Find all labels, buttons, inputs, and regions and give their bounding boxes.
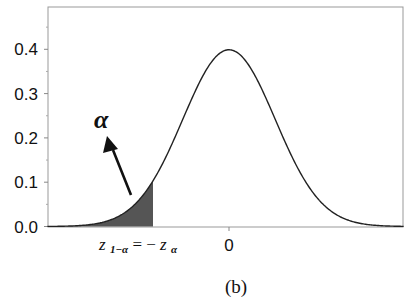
- z-symbol: z: [98, 235, 106, 254]
- y-tick-label: 0.4: [14, 40, 38, 59]
- alpha-label: α: [94, 105, 109, 134]
- y-tick-label: 0.2: [14, 129, 38, 148]
- y-axis: 0.00.10.20.30.4: [14, 27, 48, 236]
- figure-caption: (b): [225, 276, 247, 298]
- normal-distribution-chart: 0.00.10.20.30.4 α z 1−α = − z α 0 (b): [0, 0, 407, 300]
- y-tick-label: 0.3: [14, 85, 38, 104]
- z-subscript-1-alpha: 1−α: [110, 243, 129, 255]
- y-tick-label: 0.1: [14, 173, 38, 192]
- normal-pdf-curve: [47, 50, 403, 227]
- y-tick-label: 0.0: [14, 218, 38, 237]
- shaded-alpha-region: [47, 181, 153, 227]
- z-subscript-alpha: α: [171, 243, 178, 255]
- alpha-arrow: [103, 136, 131, 195]
- z-symbol-2: z: [159, 235, 167, 254]
- x-tick-label-zero: 0: [224, 236, 233, 255]
- equals-minus: = −: [132, 235, 155, 254]
- critical-value-label: z 1−α = − z α: [98, 235, 178, 257]
